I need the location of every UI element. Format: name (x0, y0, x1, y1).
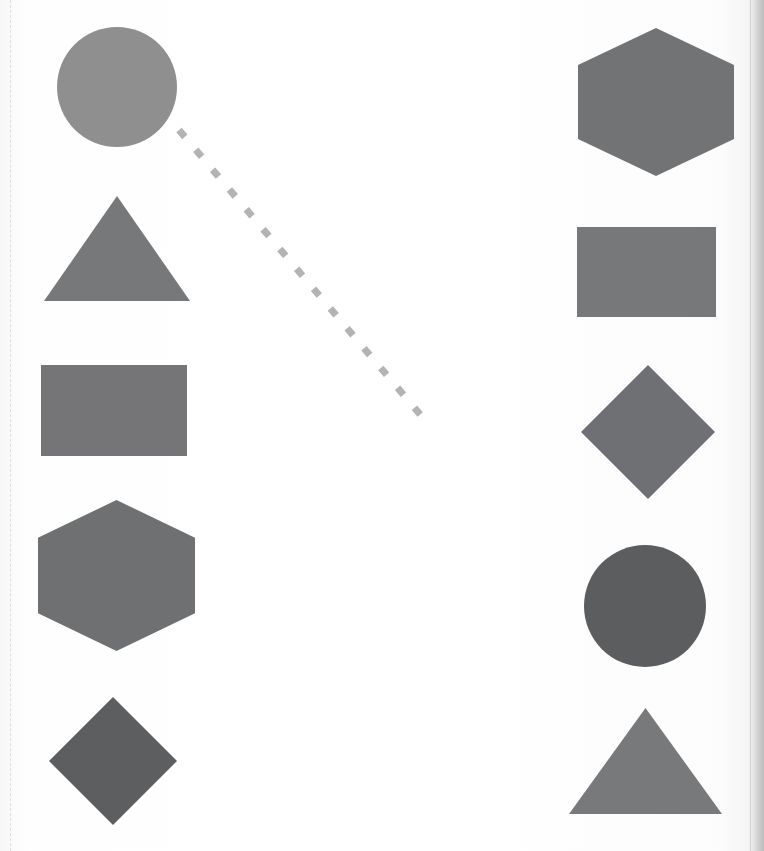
left-hexagon-polygon (38, 500, 195, 651)
left-hexagon-shape[interactable] (38, 500, 195, 651)
right-diamond-polygon (581, 365, 715, 499)
left-triangle-polygon (44, 196, 190, 301)
left-diamond-shape[interactable] (49, 697, 177, 825)
right-hexagon-polygon (578, 28, 734, 176)
right-hexagon-shape[interactable] (578, 28, 734, 176)
left-triangle-shape[interactable] (44, 196, 190, 301)
page-edge-band (748, 0, 764, 851)
right-triangle-shape[interactable] (569, 708, 722, 814)
left-circle-shape[interactable] (57, 27, 177, 147)
worksheet-canvas (0, 0, 764, 851)
left-rectangle-shape[interactable] (41, 365, 187, 456)
left-diamond-polygon (49, 697, 177, 825)
matching-connector-line[interactable] (179, 130, 424, 419)
right-diamond-shape[interactable] (581, 365, 715, 499)
right-circle-shape[interactable] (584, 545, 706, 667)
left-crop-guide-line (10, 0, 11, 851)
right-triangle-polygon (569, 708, 722, 814)
right-rectangle-shape[interactable] (577, 227, 716, 317)
